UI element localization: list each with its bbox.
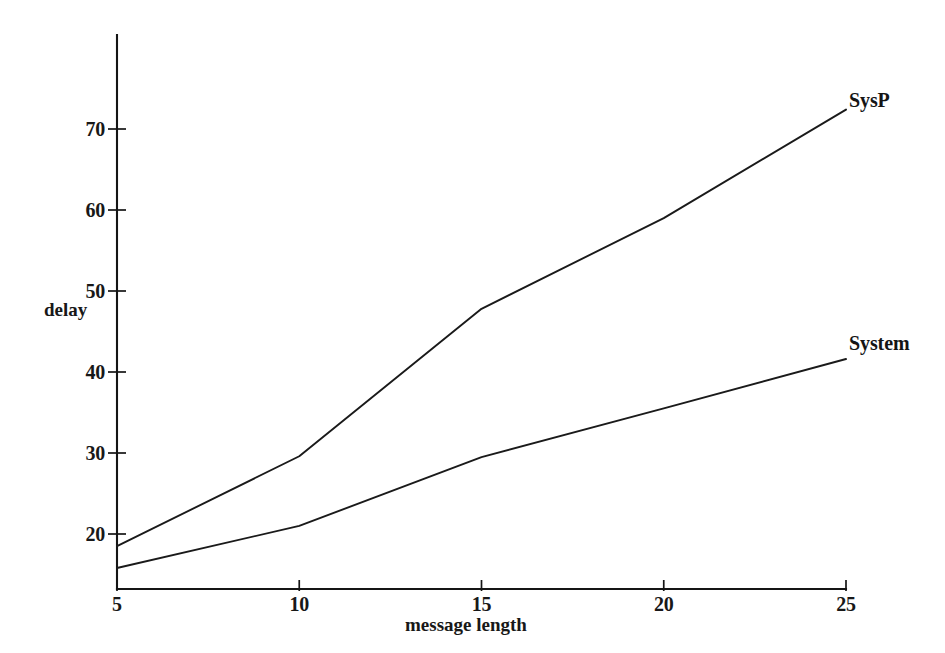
series-label-system: System [849,332,910,355]
x-tick-label: 10 [289,593,309,616]
y-tick-label: 30 [55,442,105,465]
x-axis-title: message length [405,614,527,636]
x-tick-label: 15 [472,593,492,616]
axes-group [117,35,846,589]
y-tick-label: 20 [55,523,105,546]
x-tick-label: 20 [654,593,674,616]
y-tick-label: 40 [55,361,105,384]
series-lines [117,110,846,568]
series-label-sysp: SysP [849,89,890,112]
x-tick-label: 25 [836,593,856,616]
y-axis-title: delay [44,299,87,321]
y-tick-label: 70 [55,118,105,141]
chart-plot-area [0,0,945,653]
series-line-sysp [117,110,846,547]
series-line-system [117,359,846,568]
chart-figure: 203040506070 510152025 SysPSystem delay … [0,0,945,653]
x-tick-label: 5 [112,593,122,616]
y-tick-label: 60 [55,199,105,222]
